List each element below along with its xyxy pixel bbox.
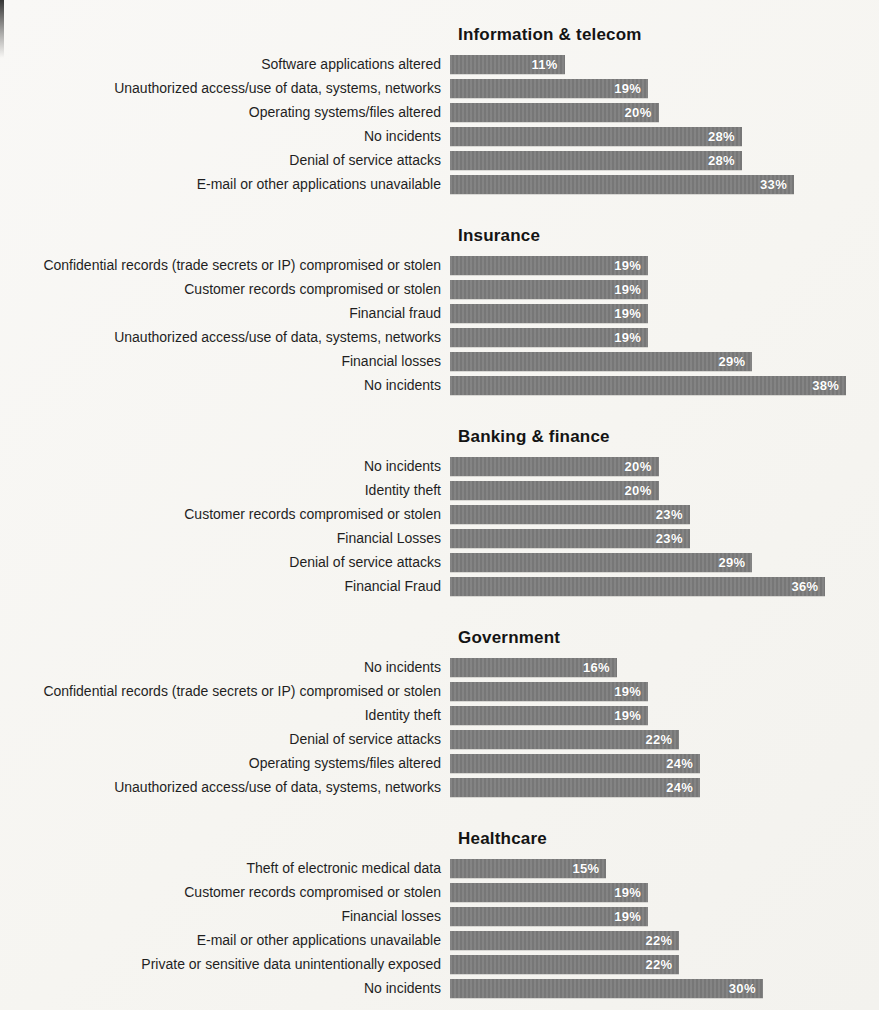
bar-track: 33% (450, 175, 867, 194)
bar: 29% (450, 553, 752, 572)
category-label: Theft of electronic medical data (0, 859, 450, 878)
value-label: 11% (531, 57, 564, 72)
category-label: Private or sensitive data unintentionall… (0, 955, 450, 974)
bar-track: 11% (450, 55, 867, 74)
bar: 24% (450, 754, 700, 773)
category-label: Confidential records (trade secrets or I… (0, 256, 450, 275)
bar: 23% (450, 505, 690, 524)
bar-track: 29% (450, 352, 867, 371)
bar: 19% (450, 79, 648, 98)
value-label: 24% (666, 780, 700, 795)
value-label: 24% (666, 756, 700, 771)
value-label: 16% (583, 660, 617, 675)
sector-title: Healthcare (458, 829, 879, 849)
bar: 28% (450, 151, 742, 170)
category-label: Denial of service attacks (0, 151, 450, 170)
bar-row: E-mail or other applications unavailable… (0, 931, 879, 950)
bar-track: 23% (450, 505, 867, 524)
value-label: 20% (625, 459, 659, 474)
bar-row: Operating systems/files altered 20% (0, 103, 879, 122)
bar-row: Denial of service attacks 28% (0, 151, 879, 170)
category-label: No incidents (0, 376, 450, 395)
bar: 19% (450, 682, 648, 701)
sector-rows: Software applications altered 11% Unauth… (0, 55, 879, 194)
bar: 36% (450, 577, 825, 596)
value-label: 19% (614, 909, 648, 924)
scanned-chart-page: Information & telecom Software applicati… (0, 0, 879, 1010)
bar-row: Unauthorized access/use of data, systems… (0, 79, 879, 98)
bar-row: Denial of service attacks 29% (0, 553, 879, 572)
value-label: 19% (614, 330, 648, 345)
bar-track: 28% (450, 151, 867, 170)
sector-rows: No incidents 16% Confidential records (t… (0, 658, 879, 797)
bar-row: Operating systems/files altered 24% (0, 754, 879, 773)
bar-row: Customer records compromised or stolen 1… (0, 280, 879, 299)
value-label: 29% (718, 555, 752, 570)
bar-row: Confidential records (trade secrets or I… (0, 682, 879, 701)
value-label: 22% (645, 732, 679, 747)
bar-row: Denial of service attacks 22% (0, 730, 879, 749)
bar-track: 19% (450, 304, 867, 323)
bar: 19% (450, 256, 648, 275)
sector-title: Government (458, 628, 879, 648)
bar-track: 20% (450, 457, 867, 476)
category-label: No incidents (0, 658, 450, 677)
bar: 33% (450, 175, 794, 194)
sector-bar-charts: Information & telecom Software applicati… (0, 25, 879, 998)
bar: 19% (450, 280, 648, 299)
bar-row: Theft of electronic medical data 15% (0, 859, 879, 878)
bar: 22% (450, 955, 679, 974)
category-label: No incidents (0, 127, 450, 146)
bar-track: 19% (450, 256, 867, 275)
bar-track: 15% (450, 859, 867, 878)
value-label: 30% (729, 981, 763, 996)
bar-track: 20% (450, 481, 867, 500)
bar-track: 24% (450, 778, 867, 797)
bar: 19% (450, 907, 648, 926)
sector-chart-1: Insurance Confidential records (trade se… (0, 226, 879, 395)
sector-chart-2: Banking & finance No incidents 20% Ident… (0, 427, 879, 596)
value-label: 19% (614, 306, 648, 321)
bar: 19% (450, 883, 648, 902)
value-label: 38% (812, 378, 846, 393)
sector-title: Banking & finance (458, 427, 879, 447)
sector-chart-4: Healthcare Theft of electronic medical d… (0, 829, 879, 998)
category-label: Unauthorized access/use of data, systems… (0, 778, 450, 797)
value-label: 23% (656, 531, 690, 546)
bar: 20% (450, 457, 659, 476)
sector-title: Insurance (458, 226, 879, 246)
bar: 29% (450, 352, 752, 371)
bar-row: No incidents 20% (0, 457, 879, 476)
value-label: 19% (614, 282, 648, 297)
bar: 19% (450, 304, 648, 323)
scan-edge-artifact (0, 0, 4, 58)
bar-row: No incidents 38% (0, 376, 879, 395)
bar: 16% (450, 658, 617, 677)
bar-row: No incidents 28% (0, 127, 879, 146)
bar: 22% (450, 730, 679, 749)
bar-row: Unauthorized access/use of data, systems… (0, 778, 879, 797)
bar-track: 24% (450, 754, 867, 773)
value-label: 28% (708, 153, 742, 168)
bar: 20% (450, 481, 659, 500)
bar-row: Unauthorized access/use of data, systems… (0, 328, 879, 347)
bar: 19% (450, 706, 648, 725)
sector-rows: Theft of electronic medical data 15% Cus… (0, 859, 879, 998)
category-label: Confidential records (trade secrets or I… (0, 682, 450, 701)
bar-row: Identity theft 20% (0, 481, 879, 500)
category-label: No incidents (0, 979, 450, 998)
bar: 24% (450, 778, 700, 797)
value-label: 19% (614, 81, 648, 96)
bar: 20% (450, 103, 659, 122)
bar-row: Financial Losses 23% (0, 529, 879, 548)
category-label: Unauthorized access/use of data, systems… (0, 79, 450, 98)
category-label: Identity theft (0, 481, 450, 500)
bar-track: 20% (450, 103, 867, 122)
bar-row: Customer records compromised or stolen 1… (0, 883, 879, 902)
category-label: Operating systems/files altered (0, 103, 450, 122)
bar-track: 29% (450, 553, 867, 572)
bar-row: Financial losses 29% (0, 352, 879, 371)
value-label: 15% (572, 861, 606, 876)
bar-row: No incidents 16% (0, 658, 879, 677)
bar-row: Confidential records (trade secrets or I… (0, 256, 879, 275)
